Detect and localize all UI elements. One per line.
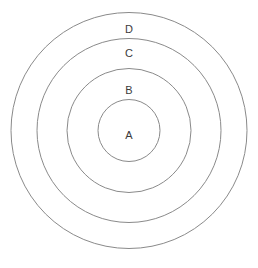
circle-label-b: B bbox=[125, 85, 133, 96]
circle-label-a: A bbox=[125, 130, 133, 141]
circle-label-d: D bbox=[125, 24, 133, 35]
circle-label-c: C bbox=[125, 48, 133, 59]
concentric-circles-diagram: D C B A bbox=[0, 0, 258, 268]
